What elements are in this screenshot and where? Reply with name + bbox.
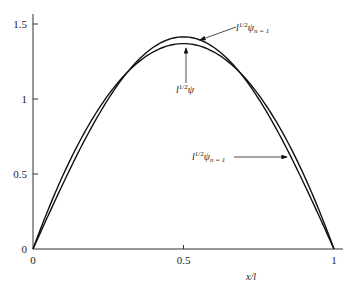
annotation-arrow-1 xyxy=(200,27,236,40)
x-tick-label: 0 xyxy=(30,254,36,266)
wavefunction-chart: 00.511.5 00.51 l1/2ψn = 1 l1/2ψ l1/2ψn =… xyxy=(0,0,351,292)
curve-psi-trial xyxy=(33,44,334,249)
x-axis-label: x/l xyxy=(245,271,256,282)
annotation-label-psi-n1-right: l1/2ψn = 1 xyxy=(192,150,225,164)
y-tick-label: 0.5 xyxy=(13,168,27,180)
y-tick-label: 1.5 xyxy=(13,18,27,30)
annotation-label-psi-trial: l1/2ψ xyxy=(176,83,195,95)
x-tick-label: 1 xyxy=(331,254,337,266)
y-tick-label: 1 xyxy=(22,93,28,105)
annotation-label-psi-n1-top: l1/2ψn = 1 xyxy=(236,21,269,35)
x-tick-label: 0.5 xyxy=(177,254,191,266)
y-tick-label: 0 xyxy=(22,243,28,255)
y-ticks: 00.511.5 xyxy=(13,18,38,255)
x-ticks: 00.51 xyxy=(30,245,337,266)
